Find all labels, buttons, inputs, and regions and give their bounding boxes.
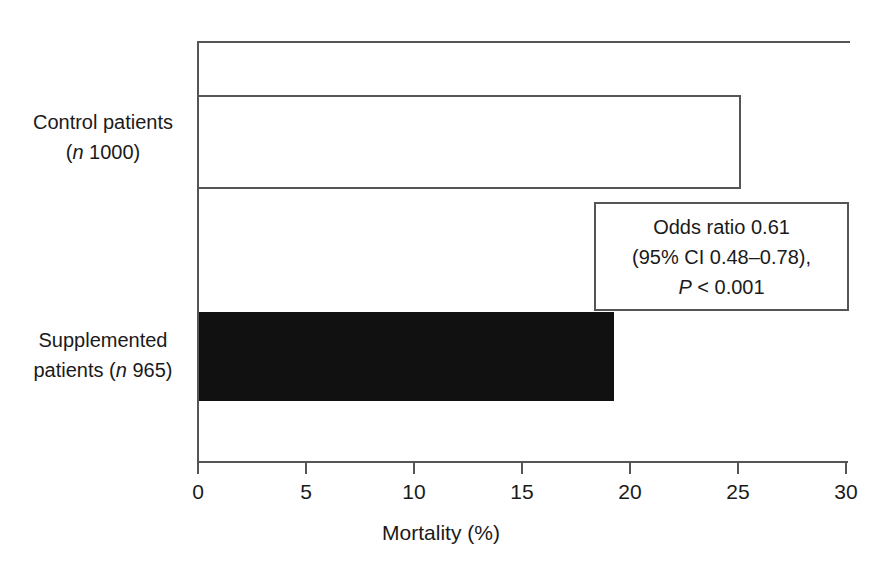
x-tick-25 <box>737 463 739 474</box>
bar-supplemented-patients <box>199 312 614 401</box>
annotation-odds-ratio: Odds ratio 0.61 <box>653 212 790 242</box>
category-label-control-line2: (n 1000) <box>8 137 198 167</box>
category-label-control-line1: Control patients <box>8 107 198 137</box>
x-tick-20 <box>629 463 631 474</box>
supplemented-n-value: 965) <box>127 359 173 381</box>
x-tick-label-15: 15 <box>492 479 552 505</box>
x-tick-30 <box>845 463 847 474</box>
control-n-value: 1000) <box>84 141 141 163</box>
statistics-annotation-box: Odds ratio 0.61 (95% CI 0.48–0.78), P < … <box>594 202 849 311</box>
plot-top-rule <box>198 41 850 43</box>
category-label-supplemented: Supplemented patients (n 965) <box>8 325 198 385</box>
category-label-supplemented-line2: patients (n 965) <box>8 355 198 385</box>
x-tick-0 <box>197 463 199 474</box>
bar-chart-figure: 0 5 10 15 20 25 30 Control patients (n 1… <box>0 0 882 577</box>
bar-control-patients <box>197 95 741 189</box>
category-label-supplemented-line1: Supplemented <box>8 325 198 355</box>
control-n-italic: n <box>72 141 83 163</box>
x-tick-label-5: 5 <box>276 479 336 505</box>
supplemented-paren-open: patients ( <box>34 359 116 381</box>
category-label-control: Control patients (n 1000) <box>8 107 198 167</box>
x-tick-label-30: 30 <box>816 479 876 505</box>
annotation-p-italic: P <box>678 276 691 298</box>
x-tick-label-10: 10 <box>384 479 444 505</box>
x-tick-10 <box>413 463 415 474</box>
x-tick-5 <box>305 463 307 474</box>
x-tick-label-20: 20 <box>600 479 660 505</box>
annotation-confidence-interval: (95% CI 0.48–0.78), <box>632 242 811 272</box>
supplemented-n-italic: n <box>116 359 127 381</box>
annotation-p-rest: < 0.001 <box>692 276 765 298</box>
x-tick-label-25: 25 <box>708 479 768 505</box>
x-tick-15 <box>521 463 523 474</box>
annotation-p-value: P < 0.001 <box>678 272 764 302</box>
x-tick-label-0: 0 <box>168 479 228 505</box>
x-axis-title: Mortality (%) <box>0 519 882 547</box>
